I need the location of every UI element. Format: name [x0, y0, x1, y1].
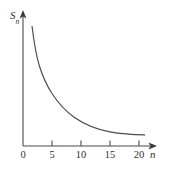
- x-tick-label-5: 5: [41, 149, 63, 161]
- x-tick-label-20: 20: [128, 149, 150, 161]
- x-tick-label-0: 0: [12, 149, 34, 161]
- plot-canvas: [0, 0, 171, 169]
- x-axis-label: n: [150, 148, 156, 160]
- graph-figure: 0 5 10 15 20 n Sn: [0, 0, 171, 169]
- y-axis-label-base: S: [10, 9, 16, 21]
- x-tick-label-10: 10: [70, 149, 92, 161]
- x-tick-label-15: 15: [99, 149, 121, 161]
- y-axis-label: Sn: [10, 9, 19, 26]
- y-axis-label-subscript: n: [16, 17, 20, 26]
- data-curve-sn: [32, 26, 145, 135]
